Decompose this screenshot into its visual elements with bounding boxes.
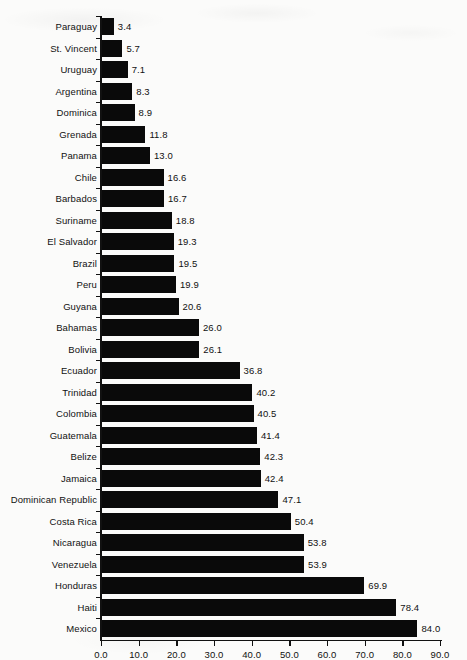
bar-row: El Salvador19.3	[0, 231, 467, 253]
y-axis-line	[100, 16, 102, 641]
bar-row: Grenada11.8	[0, 124, 467, 146]
x-axis-tick-label: 40.0	[242, 649, 261, 660]
category-label: Guatemala	[50, 425, 97, 447]
category-label: Panama	[61, 145, 97, 167]
bar	[101, 599, 396, 616]
bar-value-label: 7.1	[132, 59, 146, 81]
bar	[101, 556, 304, 573]
category-label: Honduras	[55, 575, 97, 597]
bar	[101, 298, 179, 315]
bar-value-label: 16.6	[168, 167, 187, 189]
bar	[101, 513, 291, 530]
bar-row: Brazil19.5	[0, 253, 467, 275]
bar	[101, 147, 150, 164]
bar-row: Belize42.3	[0, 446, 467, 468]
chart-plot-area: Paraguay3.4St. Vincent5.7Uruguay7.1Argen…	[0, 16, 467, 640]
bar-row: Argentina8.3	[0, 81, 467, 103]
x-axis-tick	[101, 641, 102, 646]
bar	[101, 40, 122, 57]
bar	[101, 18, 114, 35]
bar	[101, 233, 174, 250]
category-label: Trinidad	[62, 382, 97, 404]
bar-row: Dominica8.9	[0, 102, 467, 124]
category-label: Peru	[77, 274, 97, 296]
category-label: Costa Rica	[50, 511, 97, 533]
category-label: Chile	[75, 167, 97, 189]
bar-value-label: 84.0	[421, 618, 440, 640]
bar	[101, 104, 135, 121]
bar-row: Paraguay3.4	[0, 16, 467, 38]
bar	[101, 212, 172, 229]
category-label: Dominican Republic	[11, 489, 97, 511]
bar-value-label: 42.3	[264, 446, 283, 468]
bar	[101, 319, 199, 336]
bar-row: Chile16.6	[0, 167, 467, 189]
bar-value-label: 8.3	[136, 81, 150, 103]
category-label: Nicaragua	[53, 532, 97, 554]
x-axis-tick	[214, 641, 215, 646]
bar-row: Guyana20.6	[0, 296, 467, 318]
x-axis-tick	[252, 641, 253, 646]
x-axis-tick-label: 10.0	[129, 649, 148, 660]
bar-row: Panama13.0	[0, 145, 467, 167]
bar-value-label: 40.2	[256, 382, 275, 404]
bar	[101, 341, 199, 358]
x-axis-line	[100, 640, 442, 642]
bar	[101, 470, 261, 487]
category-label: St. Vincent	[50, 38, 97, 60]
x-axis-tick	[176, 641, 177, 646]
category-label: Suriname	[56, 210, 97, 232]
x-axis-tick-label: 60.0	[318, 649, 337, 660]
bar	[101, 362, 240, 379]
category-label: El Salvador	[47, 231, 97, 253]
bar-value-label: 19.5	[178, 253, 197, 275]
bar-value-label: 20.6	[183, 296, 202, 318]
bar-row: Haiti78.4	[0, 597, 467, 619]
x-axis-tick	[365, 641, 366, 646]
bar-row: Ecuador36.8	[0, 360, 467, 382]
category-label: Uruguay	[60, 59, 97, 81]
bar-value-label: 26.0	[203, 317, 222, 339]
bar	[101, 126, 145, 143]
bar-value-label: 40.5	[258, 403, 277, 425]
category-label: Haiti	[77, 597, 97, 619]
bar	[101, 534, 304, 551]
bar-value-label: 53.8	[308, 532, 327, 554]
bar-value-label: 8.9	[139, 102, 153, 124]
x-axis-tick-label: 20.0	[167, 649, 186, 660]
bar	[101, 491, 278, 508]
category-label: Mexico	[66, 618, 97, 640]
x-axis-tick-label: 0.0	[94, 649, 108, 660]
x-axis-tick-label: 30.0	[205, 649, 224, 660]
category-label: Bolivia	[68, 339, 97, 361]
bar-row: Venezuela53.9	[0, 554, 467, 576]
category-label: Barbados	[56, 188, 97, 210]
bar-value-label: 16.7	[168, 188, 187, 210]
bar-value-label: 53.9	[308, 554, 327, 576]
bar	[101, 83, 132, 100]
bar	[101, 427, 257, 444]
category-label: Bahamas	[56, 317, 97, 339]
category-label: Grenada	[59, 124, 97, 146]
bar-row: Barbados16.7	[0, 188, 467, 210]
bar-value-label: 42.4	[265, 468, 284, 490]
bar-row: Suriname18.8	[0, 210, 467, 232]
bar	[101, 448, 260, 465]
bar	[101, 620, 417, 637]
bar-chart: Paraguay3.4St. Vincent5.7Uruguay7.1Argen…	[0, 0, 467, 660]
bar	[101, 190, 164, 207]
bar-value-label: 19.9	[180, 274, 199, 296]
bar-value-label: 19.3	[178, 231, 197, 253]
bar-row: Nicaragua53.8	[0, 532, 467, 554]
x-axis-tick	[327, 641, 328, 646]
x-axis-tick-label: 50.0	[280, 649, 299, 660]
bar-row: St. Vincent5.7	[0, 38, 467, 60]
bar-value-label: 11.8	[149, 124, 167, 146]
category-label: Paraguay	[56, 16, 97, 38]
category-label: Venezuela	[52, 554, 97, 576]
x-axis-tick	[289, 641, 290, 646]
bar-value-label: 78.4	[400, 597, 419, 619]
bar	[101, 405, 254, 422]
bar-value-label: 26.1	[203, 339, 222, 361]
x-axis-tick	[139, 641, 140, 646]
